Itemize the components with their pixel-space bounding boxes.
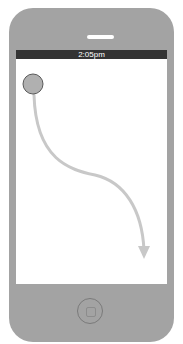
arrow-head-icon [138, 246, 150, 259]
touch-point-icon [23, 74, 43, 94]
swipe-gesture [0, 0, 183, 344]
home-square-icon [86, 307, 96, 317]
home-button-icon[interactable] [77, 298, 103, 324]
swipe-arrow-icon [34, 95, 144, 250]
